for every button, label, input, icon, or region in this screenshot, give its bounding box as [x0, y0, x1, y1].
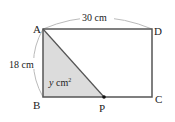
area-unit: cm	[53, 77, 68, 88]
vertex-label-C: C	[155, 93, 162, 105]
vertex-label-A: A	[33, 23, 41, 35]
area-exponent: 2	[68, 77, 71, 83]
point-P	[102, 95, 106, 99]
top-dimension-label: 30 cm	[82, 12, 107, 23]
vertex-label-B: B	[33, 99, 40, 111]
area-label: y cm2	[48, 77, 71, 88]
rectangle-diagram: A B C D P 30 cm 18 cm y cm2	[0, 0, 175, 122]
vertex-label-P: P	[99, 102, 105, 114]
left-dimension-label: 18 cm	[9, 59, 34, 70]
vertex-label-D: D	[154, 25, 162, 37]
